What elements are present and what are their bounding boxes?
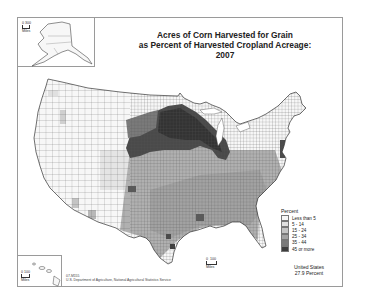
hawaii-inset: 0 100 Miles <box>17 255 62 287</box>
map-title: Acres of Corn Harvested for Grain as Per… <box>130 30 320 60</box>
legend-title: Percent <box>281 208 316 214</box>
legend-label: 15 - 24 <box>292 228 306 233</box>
hawaii-scale: 0 100 Miles <box>21 270 30 282</box>
title-line-1: Acres of Corn Harvested for Grain <box>130 30 320 40</box>
us-total: United States 27.9 Percent <box>294 264 324 276</box>
source-text: U.S. Department of Agriculture, National… <box>66 278 171 282</box>
legend-label: Less than 5 <box>292 216 316 221</box>
conus-scale: 0 100 Miles <box>206 257 217 269</box>
legend-item: 45 or more <box>281 246 316 252</box>
us-total-value: 27.9 Percent <box>294 270 324 276</box>
alaska-scale: 0 300 Miles <box>22 21 31 33</box>
legend-label: 5 - 14 <box>292 222 304 227</box>
legend: Percent Less than 5 5 - 14 15 - 24 25 - … <box>281 208 316 252</box>
source-note: 07-M155 U.S. Department of Agriculture, … <box>66 274 171 282</box>
legend-label: 35 - 44 <box>292 240 306 245</box>
legend-label: 25 - 34 <box>292 234 306 239</box>
title-line-2: as Percent of Harvested Cropland Acreage… <box>130 40 320 60</box>
legend-swatch <box>281 246 289 252</box>
legend-label: 45 or more <box>292 247 314 252</box>
alaska-inset: 0 300 Miles <box>17 17 95 67</box>
